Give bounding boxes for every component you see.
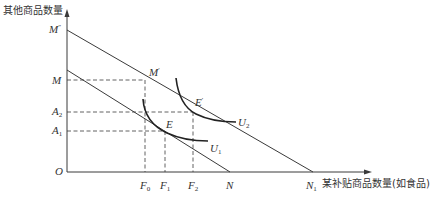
x-axis-arrow-icon [364,170,372,175]
y-tick-A2: A2 [52,106,62,119]
point-M-prime: M′ [149,67,160,78]
curve-label-U1: U1 [210,143,221,156]
point-E-prime: E′ [195,97,203,108]
x-tick-F0: F0 [140,180,150,193]
budget-line-subsidized [67,30,313,172]
y-tick-M: M [52,75,61,86]
indifference-curve-U2 [176,78,236,122]
budget-line-original [67,70,230,172]
y-tick-A1: A1 [52,125,62,138]
origin-label: O [55,166,63,177]
curve-label-U2: U2 [238,117,249,130]
y-tick-M-double-prime: M″ [49,24,61,35]
diagram-canvas [0,0,433,197]
y-axis-arrow-icon [65,9,70,17]
point-E: E [166,119,173,130]
diagram: 其他商品数量 某补贴商品数量(如食品) O M″ M A2 A1 F0 F1 F… [0,0,433,197]
y-axis-label: 其他商品数量 [3,6,63,16]
x-tick-F2: F2 [188,180,198,193]
x-tick-N: N [226,180,233,191]
x-tick-F1: F1 [160,180,170,193]
x-tick-N1: N1 [306,180,317,193]
x-axis-label: 某补贴商品数量(如食品) [322,179,430,189]
